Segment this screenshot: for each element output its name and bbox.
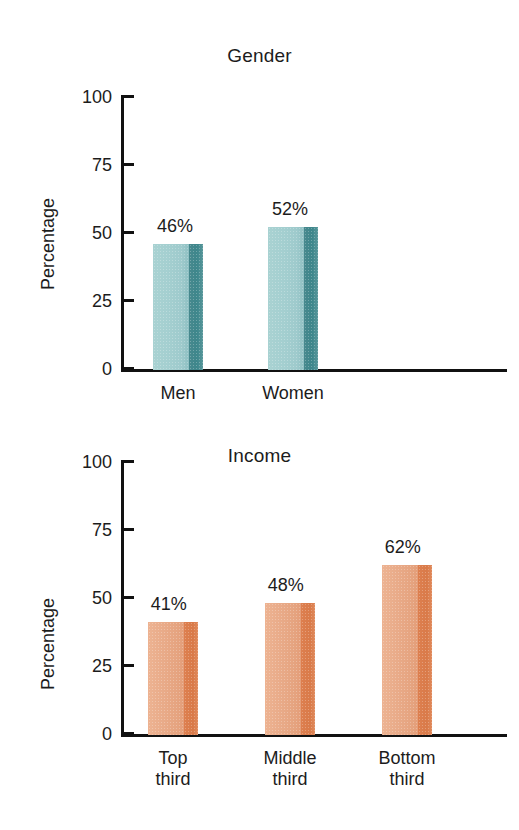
bar-texture xyxy=(265,603,315,735)
bar-fill xyxy=(153,244,203,370)
bar-value-label: 52% xyxy=(272,199,308,220)
x-category-line1: Top xyxy=(158,748,187,768)
y-tick-0-gender: 0 xyxy=(121,367,134,370)
bar-fill xyxy=(265,603,315,735)
y-tick-50-income: 50 xyxy=(121,596,134,599)
y-tick-0-income: 0 xyxy=(121,732,134,735)
y-tick-75-gender: 75 xyxy=(121,163,134,166)
y-tick-25-gender: 25 xyxy=(121,299,134,302)
bar-value-label: 41% xyxy=(151,594,187,615)
y-tick-label: 100 xyxy=(82,451,112,472)
plot-area-gender: 100 75 50 25 0 46% Men xyxy=(121,95,507,370)
plot-area-income: 100 75 50 25 0 41% Top third xyxy=(121,460,507,735)
x-category-label-men: Men xyxy=(160,383,195,404)
bar-fill xyxy=(148,622,198,735)
y-tick-label: 50 xyxy=(92,587,112,608)
y-axis-label-gender: Percentage xyxy=(38,198,59,290)
bar-top-third[interactable]: 41% Top third xyxy=(148,622,198,735)
bar-value-label: 48% xyxy=(268,575,304,596)
x-category-line1: Middle xyxy=(263,748,316,768)
bar-texture xyxy=(268,227,318,370)
y-tick-label: 0 xyxy=(102,723,112,744)
y-tick-label: 0 xyxy=(102,358,112,379)
y-tick-label: 25 xyxy=(92,655,112,676)
y-tick-label: 75 xyxy=(92,154,112,175)
chart-panel-income: Income Percentage 100 75 50 25 0 xyxy=(0,415,519,830)
y-tick-label: 100 xyxy=(82,86,112,107)
bar-fill xyxy=(382,565,432,735)
y-tick-25-income: 25 xyxy=(121,664,134,667)
bar-men[interactable]: 46% Men xyxy=(153,244,203,370)
bar-value-label: 62% xyxy=(385,537,421,558)
y-tick-label: 25 xyxy=(92,290,112,311)
bar-texture xyxy=(153,244,203,370)
y-tick-100-gender: 100 xyxy=(121,95,134,98)
x-category-label-bottom-third: Bottom third xyxy=(378,748,435,790)
bar-texture xyxy=(382,565,432,735)
chart-panel-gender: Gender Percentage 100 75 50 25 0 xyxy=(0,0,519,415)
bar-bottom-third[interactable]: 62% Bottom third xyxy=(382,565,432,735)
x-category-line2: third xyxy=(155,769,190,789)
bar-women[interactable]: 52% Women xyxy=(268,227,318,370)
x-category-line2: third xyxy=(389,769,424,789)
y-tick-75-income: 75 xyxy=(121,528,134,531)
bar-middle-third[interactable]: 48% Middle third xyxy=(265,603,315,735)
y-tick-label: 75 xyxy=(92,519,112,540)
bar-value-label: 46% xyxy=(157,216,193,237)
x-category-line1: Bottom xyxy=(378,748,435,768)
y-tick-100-income: 100 xyxy=(121,460,134,463)
x-category-label-top-third: Top third xyxy=(155,748,190,790)
y-tick-50-gender: 50 xyxy=(121,231,134,234)
bar-texture xyxy=(148,622,198,735)
bar-fill xyxy=(268,227,318,370)
x-category-line2: third xyxy=(272,769,307,789)
chart-title-gender: Gender xyxy=(0,45,519,67)
y-axis-label-income: Percentage xyxy=(38,598,59,690)
x-category-label-middle-third: Middle third xyxy=(263,748,316,790)
y-tick-label: 50 xyxy=(92,222,112,243)
x-category-label-women: Women xyxy=(262,383,324,404)
